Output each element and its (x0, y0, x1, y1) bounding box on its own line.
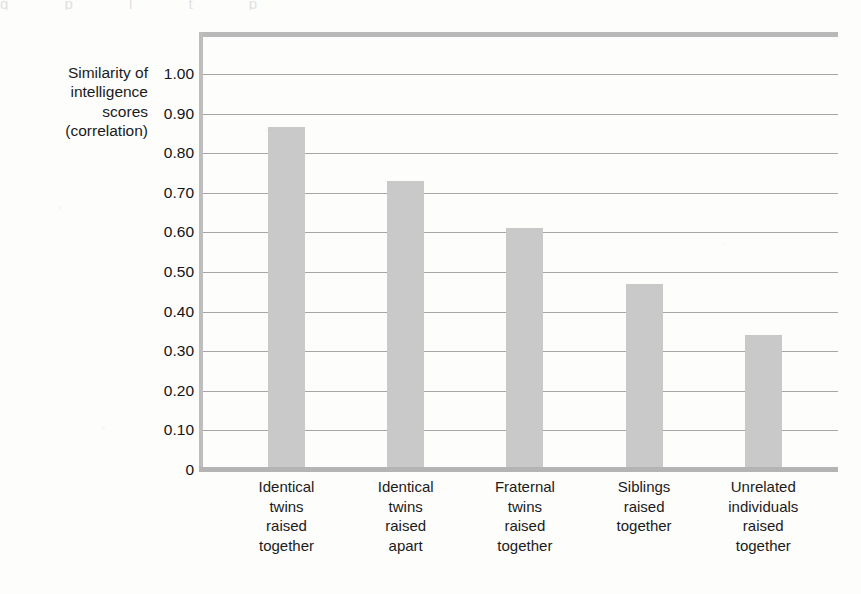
y-tick-label-0.40: 0.40 (140, 304, 194, 320)
x-category-label-2-line-3: raised (344, 516, 468, 536)
x-category-label-4-line-1: Siblings (582, 477, 706, 497)
x-category-label-3-line-2: twins (463, 497, 587, 517)
y-tick-label-0.50: 0.50 (140, 264, 194, 280)
y-axis-title: Similarity of intelligence scores (corre… (4, 63, 148, 141)
plot-frame-left-border (199, 32, 203, 472)
gridline-0.90 (203, 114, 838, 115)
y-axis-tick-labels: 1.000.900.800.700.600.500.400.300.200.10… (140, 0, 194, 594)
x-category-label-1-line-2: twins (225, 497, 349, 517)
x-category-label-3: Fraternaltwinsraisedtogether (463, 477, 587, 555)
bar-4 (626, 284, 663, 468)
x-category-label-1-line-1: Identical (225, 477, 349, 497)
y-tick-label-0.90: 0.90 (140, 106, 194, 122)
x-category-label-2-line-4: apart (344, 536, 468, 556)
x-axis-baseline (199, 467, 838, 472)
y-tick-label-1.00: 1.00 (140, 66, 194, 82)
x-category-label-1-line-4: together (225, 536, 349, 556)
x-category-label-3-line-3: raised (463, 516, 587, 536)
x-category-label-3-line-4: together (463, 536, 587, 556)
x-category-label-2: Identicaltwinsraisedapart (344, 477, 468, 555)
figure-page: g p l t p Similarity of intelligence sco… (0, 0, 861, 594)
y-tick-label-0.80: 0.80 (140, 145, 194, 161)
y-axis-title-line-3: scores (4, 102, 148, 121)
y-tick-label-0: 0 (140, 462, 194, 478)
x-category-label-5-line-3: raised (701, 516, 825, 536)
bar-2 (387, 181, 424, 468)
y-tick-label-0.20: 0.20 (140, 383, 194, 399)
x-category-label-5-line-4: together (701, 536, 825, 556)
plot-frame-top-border (199, 32, 838, 37)
x-category-label-1: Identicaltwinsraisedtogether (225, 477, 349, 555)
x-category-label-4-line-3: together (582, 516, 706, 536)
y-axis-title-line-2: intelligence (4, 82, 148, 101)
x-category-label-4: Siblingsraisedtogether (582, 477, 706, 536)
y-axis-title-line-1: Similarity of (4, 63, 148, 82)
x-category-label-2-line-2: twins (344, 497, 468, 517)
bar-5 (745, 335, 782, 468)
x-category-label-5-line-1: Unrelated (701, 477, 825, 497)
x-category-label-4-line-2: raised (582, 497, 706, 517)
x-category-label-2-line-1: Identical (344, 477, 468, 497)
y-axis-title-line-4: (correlation) (4, 121, 148, 140)
x-axis-category-labels: IdenticaltwinsraisedtogetherIdenticaltwi… (199, 477, 861, 587)
scan-bleed-top-fragment: g p l t p (0, 0, 861, 10)
x-category-label-5: Unrelatedindividualsraisedtogether (701, 477, 825, 555)
gridline-1.00 (203, 74, 838, 75)
y-tick-label-0.30: 0.30 (140, 343, 194, 359)
y-tick-label-0.10: 0.10 (140, 423, 194, 439)
plot-area (199, 32, 838, 472)
bar-3 (506, 228, 543, 468)
y-tick-label-0.60: 0.60 (140, 225, 194, 241)
x-category-label-3-line-1: Fraternal (463, 477, 587, 497)
y-tick-label-0.70: 0.70 (140, 185, 194, 201)
bar-1 (268, 127, 305, 468)
x-category-label-5-line-2: individuals (701, 497, 825, 517)
x-category-label-1-line-3: raised (225, 516, 349, 536)
